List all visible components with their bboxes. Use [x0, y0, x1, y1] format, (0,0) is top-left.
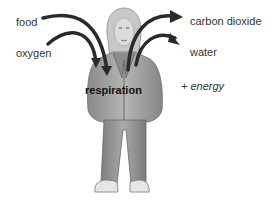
carbon-dioxide-arrowhead	[170, 10, 183, 23]
person-illustration	[0, 0, 278, 207]
energy-label: + energy	[181, 80, 224, 92]
input-oxygen-label: oxygen	[16, 47, 51, 59]
output-water-label: water	[190, 46, 217, 58]
oxygen-arrow	[48, 33, 96, 62]
input-food-label: food	[16, 16, 37, 28]
legs	[101, 120, 146, 184]
output-carbon-dioxide-label: carbon dioxide	[190, 15, 262, 27]
process-label: respiration	[85, 84, 142, 96]
water-arrowhead	[168, 33, 180, 45]
shoes	[95, 180, 149, 192]
